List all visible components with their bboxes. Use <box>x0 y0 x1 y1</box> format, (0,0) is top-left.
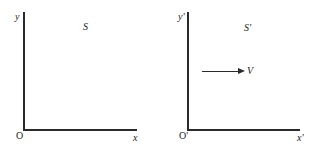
frame-s-prime-x-axis <box>187 129 300 131</box>
frame-s-origin-label: O <box>16 131 23 141</box>
frame-s-x-label: x <box>133 133 137 143</box>
velocity-label: V <box>247 66 253 76</box>
frame-s-prime-y-axis <box>187 12 189 130</box>
frame-s-y-axis <box>23 12 25 130</box>
frame-s-title: S <box>83 22 88 32</box>
velocity-arrow-shaft <box>202 71 240 73</box>
frame-s-prime-y-label: y' <box>178 12 185 22</box>
arrow-right-icon <box>238 68 245 74</box>
frame-s-y-label: y <box>15 12 19 22</box>
frame-s-x-axis <box>23 129 137 131</box>
frame-s-prime-title: S' <box>244 23 251 33</box>
frame-s-prime-x-label: x' <box>297 133 304 143</box>
frame-s-prime-origin-label: O' <box>179 131 188 141</box>
